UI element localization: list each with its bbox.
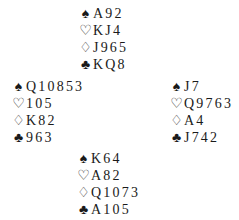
spade-icon: ♠	[12, 78, 25, 95]
north-clubs-row: ♣KQ8	[79, 56, 128, 73]
east-hearts-row: ♡Q9763	[170, 95, 233, 112]
north-clubs: KQ8	[93, 56, 127, 73]
north-spades: A92	[93, 5, 124, 22]
east-diamonds-row: ♢A4	[170, 112, 233, 129]
west-diamonds: K82	[26, 112, 57, 129]
north-diamonds: J965	[93, 39, 128, 56]
east-clubs: J742	[184, 129, 219, 146]
heart-icon: ♡	[170, 95, 183, 112]
west-hearts: 105	[26, 95, 54, 112]
heart-icon: ♡	[12, 95, 25, 112]
club-icon: ♣	[170, 129, 183, 146]
east-diamonds: A4	[184, 112, 206, 129]
heart-icon: ♡	[77, 167, 90, 184]
south-clubs-row: ♣A105	[77, 201, 140, 218]
south-diamonds: Q1073	[91, 184, 140, 201]
south-hearts-row: ♡A82	[77, 167, 140, 184]
diamond-icon: ♢	[170, 112, 183, 129]
club-icon: ♣	[12, 129, 25, 146]
east-spades: J7	[184, 78, 201, 95]
west-spades-row: ♠Q10853	[12, 78, 84, 95]
diamond-icon: ♢	[79, 39, 92, 56]
north-hearts: KJ4	[93, 22, 122, 39]
club-icon: ♣	[77, 201, 90, 218]
north-diamonds-row: ♢J965	[79, 39, 128, 56]
spade-icon: ♠	[79, 5, 92, 22]
west-hearts-row: ♡105	[12, 95, 84, 112]
south-diamonds-row: ♢Q1073	[77, 184, 140, 201]
west-hand: ♠Q10853 ♡105 ♢K82 ♣963	[12, 78, 84, 146]
heart-icon: ♡	[79, 22, 92, 39]
west-spades: Q10853	[26, 78, 84, 95]
spade-icon: ♠	[77, 150, 90, 167]
west-clubs: 963	[26, 129, 54, 146]
spade-icon: ♠	[170, 78, 183, 95]
north-hand: ♠A92 ♡KJ4 ♢J965 ♣KQ8	[79, 5, 128, 73]
west-diamonds-row: ♢K82	[12, 112, 84, 129]
north-hearts-row: ♡KJ4	[79, 22, 128, 39]
south-hand: ♠K64 ♡A82 ♢Q1073 ♣A105	[77, 150, 140, 218]
south-hearts: A82	[91, 167, 122, 184]
south-spades-row: ♠K64	[77, 150, 140, 167]
east-hand: ♠J7 ♡Q9763 ♢A4 ♣J742	[170, 78, 233, 146]
south-spades: K64	[91, 150, 122, 167]
club-icon: ♣	[79, 56, 92, 73]
north-spades-row: ♠A92	[79, 5, 128, 22]
west-clubs-row: ♣963	[12, 129, 84, 146]
east-spades-row: ♠J7	[170, 78, 233, 95]
diamond-icon: ♢	[77, 184, 90, 201]
diamond-icon: ♢	[12, 112, 25, 129]
south-clubs: A105	[91, 201, 131, 218]
east-clubs-row: ♣J742	[170, 129, 233, 146]
east-hearts: Q9763	[184, 95, 233, 112]
